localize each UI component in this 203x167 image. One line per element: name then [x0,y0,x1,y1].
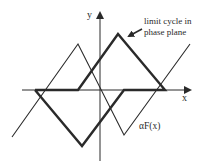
phase-plane-diagram: y x limit cycle in phase plane αF(x) [0,0,203,167]
x-axis-label: x [182,92,187,103]
limit-cycle-label-line2: phase plane [144,27,186,37]
limit-cycle-pointer-arrow [129,29,142,36]
limit-cycle-label-line1: limit cycle in [144,16,192,26]
y-axis-label: y [87,9,92,20]
characteristic-label: αF(x) [139,121,160,132]
